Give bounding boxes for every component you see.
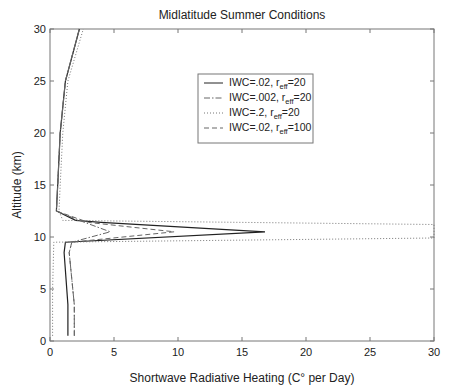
y-tick-label: 10 <box>34 231 46 243</box>
chart: Midlatitude Summer Conditions 0510152025… <box>0 0 451 389</box>
y-tick-label: 15 <box>34 179 46 191</box>
x-tick-label: 5 <box>111 346 117 358</box>
axis-ticks: 051015202530051015202530 <box>34 23 440 358</box>
x-tick-label: 10 <box>172 346 184 358</box>
y-axis-label: Altitude (km) <box>10 151 24 218</box>
y-tick-label: 5 <box>40 283 46 295</box>
y-tick-label: 30 <box>34 23 46 35</box>
x-tick-label: 0 <box>47 346 53 358</box>
x-axis-label: Shortwave Radiative Heating (C° per Day) <box>130 371 355 385</box>
series-line-1 <box>56 29 110 336</box>
chart-title: Midlatitude Summer Conditions <box>159 8 326 22</box>
x-tick-label: 15 <box>236 346 248 358</box>
y-tick-label: 25 <box>34 75 46 87</box>
x-tick-label: 30 <box>428 346 440 358</box>
x-tick-label: 25 <box>364 346 376 358</box>
y-tick-label: 0 <box>40 335 46 347</box>
legend: IWC=.02, reff=20IWC=.002, reff=20IWC=.2,… <box>198 74 313 143</box>
y-tick-label: 20 <box>34 127 46 139</box>
series-line-3 <box>56 29 174 336</box>
x-tick-label: 20 <box>300 346 312 358</box>
